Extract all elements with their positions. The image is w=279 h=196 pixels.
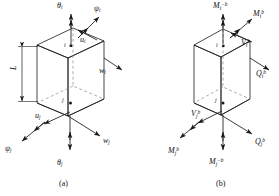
- vector-axial-j-b: [221, 115, 252, 134]
- vector-shear-j-b: [198, 111, 222, 123]
- label-theta-i: θi: [57, 2, 62, 11]
- label-node-i-b: i: [216, 42, 218, 48]
- label-moment-i-minus-b: Mi−b: [213, 2, 228, 11]
- label-moment-j-b: Mjb: [168, 147, 179, 156]
- figure-container: θi ψi ui wi uj wj ψj θj L i j Mi−b Mib V…: [0, 0, 279, 196]
- label-node-j-b: j: [215, 97, 217, 103]
- label-u-i: ui: [80, 36, 86, 45]
- node-marker-i-a: [70, 44, 73, 47]
- caption-panel-a: (a): [59, 179, 68, 188]
- label-axial-j-b: Qjb: [255, 138, 265, 147]
- label-axial-i-b: Qib: [256, 70, 266, 79]
- dimension-L: [18, 47, 38, 102]
- vector-w-j: [68, 116, 100, 136]
- panel-a-hidden-edges: [37, 28, 104, 103]
- label-shear-i-b: Vib: [241, 39, 250, 48]
- label-u-j: uj: [35, 112, 41, 121]
- label-psi-j: ψj: [5, 145, 11, 154]
- node-marker-i-b: [222, 45, 224, 47]
- label-w-i: wi: [99, 67, 106, 76]
- label-moment-i-b: Mib: [253, 10, 264, 19]
- label-dimension-L: L: [10, 66, 18, 70]
- diagram-canvas: [0, 0, 279, 196]
- label-node-i-a: i: [64, 42, 66, 48]
- label-moment-j-minus-b: Mj−b: [209, 158, 224, 167]
- label-shear-j-b: Vjb: [191, 110, 200, 119]
- caption-panel-b: (b): [216, 179, 225, 188]
- panel-b-vectors: [180, 14, 269, 150]
- vector-u-j: [44, 112, 70, 124]
- label-w-j: wj: [103, 137, 110, 146]
- label-psi-i: ψi: [94, 5, 100, 14]
- node-marker-j-b: [222, 102, 225, 105]
- vector-w-i: [104, 58, 122, 70]
- node-marker-j-a: [69, 102, 72, 105]
- label-theta-j: θj: [57, 159, 62, 168]
- label-node-j-a: j: [62, 97, 64, 103]
